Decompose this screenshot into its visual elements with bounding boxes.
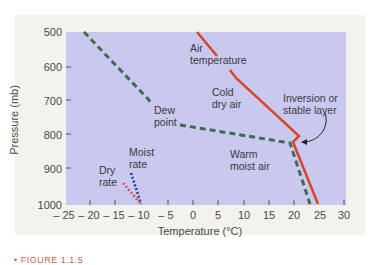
svg-text:rate: rate: [99, 176, 117, 188]
svg-text:25: 25: [314, 209, 326, 221]
svg-text:Warm: Warm: [230, 148, 258, 160]
svg-text:– 20: – 20: [78, 209, 99, 221]
svg-text:500: 500: [44, 26, 62, 38]
svg-text:900: 900: [44, 163, 62, 175]
svg-text:Cold: Cold: [212, 86, 234, 98]
svg-text:temperature: temperature: [190, 54, 247, 66]
svg-text:– 15: – 15: [103, 209, 124, 221]
svg-text:700: 700: [44, 95, 62, 107]
svg-text:30: 30: [338, 209, 350, 221]
svg-text:rate: rate: [129, 158, 147, 170]
svg-text:0: 0: [190, 209, 196, 221]
svg-text:point: point: [154, 116, 177, 128]
y-axis-ticks: 500 600 700 800 900 1000: [38, 26, 62, 211]
svg-text:5: 5: [215, 209, 221, 221]
x-axis-ticks: – 25 – 20 – 15 – 10 – 5 0 5 10 15 20 25 …: [53, 209, 350, 221]
figure-caption: • FIGURE 1.1.5: [14, 255, 83, 265]
svg-text:Inversion or: Inversion or: [283, 92, 338, 104]
svg-text:stable layer: stable layer: [283, 104, 337, 116]
svg-text:Dry: Dry: [99, 164, 116, 176]
svg-text:– 5: – 5: [158, 209, 173, 221]
svg-text:600: 600: [44, 61, 62, 73]
svg-text:10: 10: [238, 209, 250, 221]
svg-text:Air: Air: [190, 42, 203, 54]
svg-text:– 25: – 25: [53, 209, 74, 221]
svg-text:Dew: Dew: [154, 104, 175, 116]
y-axis-label: Pressure (mb): [8, 85, 20, 155]
svg-text:20: 20: [288, 209, 300, 221]
x-axis-label: Temperature (°C): [158, 225, 242, 237]
svg-text:dry air: dry air: [212, 98, 242, 110]
svg-text:Moist: Moist: [129, 146, 154, 158]
svg-text:15: 15: [263, 209, 275, 221]
svg-text:– 10: – 10: [128, 209, 149, 221]
svg-text:800: 800: [44, 129, 62, 141]
svg-text:moist air: moist air: [230, 160, 270, 172]
